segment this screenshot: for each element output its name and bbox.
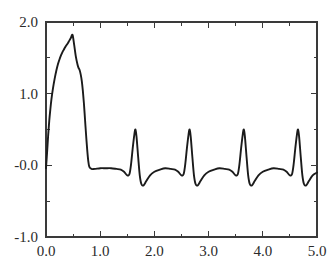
x-tick-label: 5.0	[308, 243, 327, 259]
y-tick-label: -0.0	[14, 157, 38, 173]
x-tick-label: 3.0	[199, 243, 218, 259]
x-tick-label: 2.0	[145, 243, 164, 259]
x-tick-label: 4.0	[253, 243, 272, 259]
chart-background	[0, 0, 335, 266]
y-tick-label: -1.0	[14, 229, 38, 245]
x-tick-label: 0.0	[37, 243, 56, 259]
y-tick-label: 2.0	[19, 14, 38, 30]
y-tick-label: 1.0	[19, 86, 38, 102]
waveform-line-chart: -1.0-0.01.02.0 0.01.02.03.04.05.0	[0, 0, 335, 266]
x-tick-label: 1.0	[91, 243, 110, 259]
chart-figure: -1.0-0.01.02.0 0.01.02.03.04.05.0	[0, 0, 335, 266]
